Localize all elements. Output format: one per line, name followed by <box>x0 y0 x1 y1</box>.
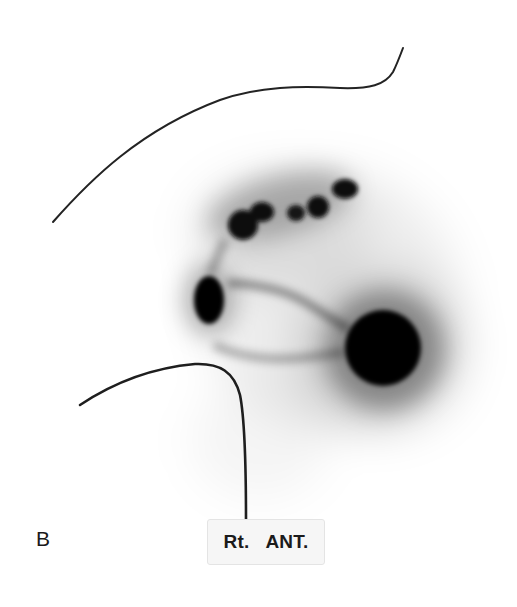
scintigraphy-image <box>0 0 517 607</box>
side-label: Rt. <box>224 531 250 553</box>
view-label-box: Rt. ANT. <box>207 519 325 565</box>
panel-letter: B <box>36 527 50 551</box>
projection-label: ANT. <box>265 531 308 553</box>
